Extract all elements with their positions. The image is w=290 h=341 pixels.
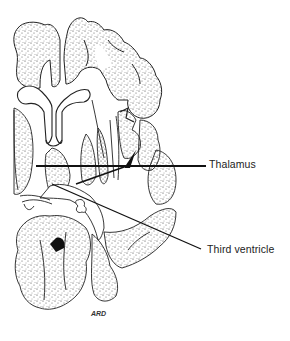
artist-signature: ARD bbox=[91, 310, 106, 317]
basal-ganglia bbox=[81, 116, 119, 185]
insula-and-temporal bbox=[118, 108, 176, 204]
label-third-ventricle: Third ventricle bbox=[207, 243, 274, 255]
brain-coronal-section-illustration bbox=[0, 0, 290, 341]
label-thalamus: Thalamus bbox=[209, 158, 256, 170]
